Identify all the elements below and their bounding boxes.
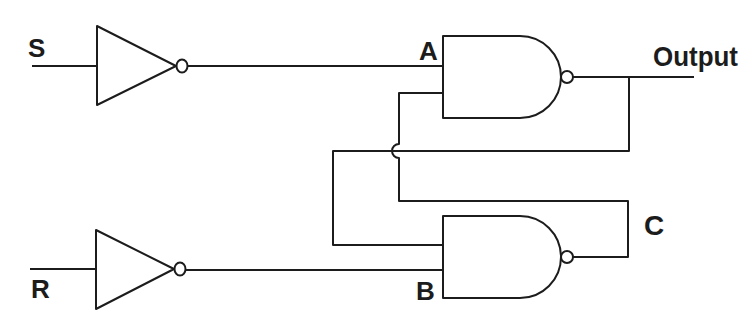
inverter-r (30, 230, 443, 309)
not-gate-r-bubble (175, 263, 186, 276)
label-c: C (644, 210, 664, 241)
nand-top-body (443, 36, 561, 118)
not-gate-r-triangle (96, 230, 174, 309)
nand-gate-bottom (443, 216, 573, 298)
nand-top-bubble (561, 71, 573, 83)
circuit-diagram: S R A B C Output (0, 0, 754, 328)
label-s: S (28, 33, 45, 63)
not-gate-s-triangle (97, 26, 176, 105)
label-r: R (31, 274, 50, 304)
nand-bottom-body (443, 216, 561, 298)
nand-bottom-bubble (561, 251, 573, 263)
label-a: A (419, 36, 438, 66)
label-b: B (416, 276, 435, 306)
inverter-s (32, 26, 443, 105)
label-output: Output (653, 42, 738, 72)
not-gate-s-bubble (177, 60, 188, 73)
